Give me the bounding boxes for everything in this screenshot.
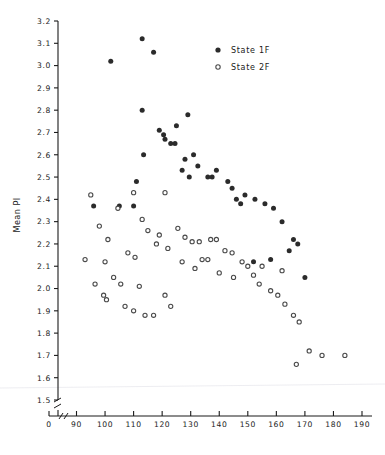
data-point-state-1f (174, 123, 179, 128)
data-point-state-1f (268, 257, 273, 262)
data-point-state-2f (206, 257, 210, 261)
data-point-state-2f (260, 264, 264, 268)
x-tick-label: 120 (154, 420, 170, 429)
data-point-state-1f (271, 206, 276, 211)
x-tick-label: 170 (297, 420, 313, 429)
data-point-state-1f (173, 141, 178, 146)
y-tick-label: 2.7 (37, 128, 51, 137)
data-point-state-2f (126, 251, 130, 255)
data-point-state-2f (133, 255, 137, 259)
data-point-state-2f (169, 304, 173, 308)
data-point-state-1f (140, 36, 145, 41)
data-point-state-2f (83, 257, 87, 261)
x-tick-label: 100 (97, 420, 113, 429)
data-point-state-2f (93, 282, 97, 286)
data-point-state-2f (151, 313, 155, 317)
data-point-state-1f (251, 259, 256, 264)
data-point-state-2f (180, 260, 184, 264)
data-point-state-2f (291, 313, 295, 317)
data-point-state-1f (185, 112, 190, 117)
data-point-state-2f (280, 269, 284, 273)
data-point-state-1f (302, 275, 307, 280)
data-point-state-1f (295, 241, 300, 246)
data-point-state-1f (230, 186, 235, 191)
data-point-state-2f (97, 224, 101, 228)
data-point-state-1f (141, 152, 146, 157)
data-point-state-2f (116, 206, 120, 210)
data-point-state-2f (154, 242, 158, 246)
x-tick-label: 150 (240, 420, 256, 429)
y-tick-label: 2.9 (37, 84, 51, 93)
legend-marker-open-circle-icon (216, 65, 220, 69)
x-tick-label: 190 (354, 420, 370, 429)
data-point-state-1f (108, 59, 113, 64)
data-point-state-1f (262, 201, 267, 206)
data-point-state-1f (157, 128, 162, 133)
data-point-state-1f (180, 168, 185, 173)
data-point-state-2f (102, 293, 106, 297)
data-point-state-2f (269, 289, 273, 293)
legend-entry-label: State 2F (231, 63, 270, 72)
data-point-state-1f (287, 248, 292, 253)
data-point-state-1f (140, 108, 145, 113)
data-point-state-2f (190, 240, 194, 244)
data-point-state-2f (193, 266, 197, 270)
x-tick-label: 110 (125, 420, 141, 429)
data-point-state-2f (163, 293, 167, 297)
data-point-state-1f (163, 137, 168, 142)
data-point-state-2f (183, 235, 187, 239)
y-tick-label: 2.3 (37, 217, 51, 226)
data-point-state-2f (251, 273, 255, 277)
data-point-state-2f (106, 237, 110, 241)
data-point-state-1f (91, 204, 96, 209)
data-point-state-2f (230, 251, 234, 255)
scatter-plot: 3.23.13.02.92.82.72.62.52.42.32.22.12.01… (0, 0, 385, 455)
chart-canvas: 3.23.13.02.92.82.72.62.52.42.32.22.12.01… (0, 0, 385, 455)
data-point-state-2f (112, 275, 116, 279)
data-point-state-2f (140, 217, 144, 221)
data-point-state-2f (307, 349, 311, 353)
y-axis-title: Mean PI (12, 197, 22, 232)
y-tick-label: 1.7 (37, 351, 51, 360)
data-point-state-2f (163, 191, 167, 195)
y-tick-label: 2.0 (37, 284, 51, 293)
y-tick-label: 2.2 (37, 240, 51, 249)
data-point-state-1f (238, 201, 243, 206)
data-point-state-1f (182, 157, 187, 162)
data-point-state-2f (231, 275, 235, 279)
data-point-state-1f (214, 168, 219, 173)
data-point-state-2f (240, 260, 244, 264)
data-point-state-2f (257, 282, 261, 286)
data-point-state-2f (143, 313, 147, 317)
chart-legend: State 1FState 2F (215, 46, 270, 72)
y-tick-label: 2.4 (37, 195, 51, 204)
data-point-state-1f (210, 175, 215, 180)
data-point-state-1f (134, 179, 139, 184)
data-point-state-2f (176, 226, 180, 230)
data-point-state-2f (132, 309, 136, 313)
data-point-state-2f (146, 228, 150, 232)
y-tick-label: 2.8 (37, 106, 51, 115)
data-point-state-1f (280, 219, 285, 224)
data-point-state-1f (195, 163, 200, 168)
data-point-state-2f (283, 302, 287, 306)
x-tick-label: 160 (268, 420, 284, 429)
data-point-state-1f (151, 50, 156, 55)
data-point-state-2f (217, 271, 221, 275)
data-point-state-2f (166, 246, 170, 250)
data-point-state-1f (225, 179, 230, 184)
x-tick-label: 130 (183, 420, 199, 429)
data-point-state-2f (89, 193, 93, 197)
y-tick-label: 2.6 (37, 151, 51, 160)
data-point-state-2f (197, 240, 201, 244)
data-point-state-1f (191, 152, 196, 157)
data-point-state-2f (297, 320, 301, 324)
x-tick-label: 90 (71, 420, 82, 429)
x-axis: 090100110120130140150160170180190 (46, 411, 372, 429)
series-state-2f-points (83, 191, 347, 367)
x-tick-label: 140 (211, 420, 227, 429)
y-tick-label: 3.2 (37, 17, 51, 26)
data-point-state-2f (132, 191, 136, 195)
y-tick-label: 1.5 (37, 396, 51, 405)
data-point-state-1f (187, 175, 192, 180)
